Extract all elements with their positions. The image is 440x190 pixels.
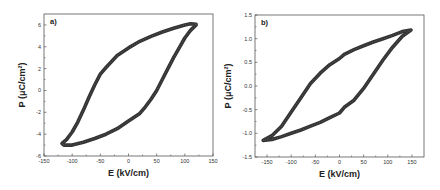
y-tick-label: -0.5 <box>243 107 252 113</box>
y-tick-label: -2 <box>36 109 41 115</box>
y-tick-label: 4 <box>38 44 41 50</box>
panel-label: a) <box>50 17 57 26</box>
chart-panel-b: -150-100-50050100150-1.5-1.0-0.50.00.51.… <box>223 12 424 179</box>
chart-panel-a: -150-100-50050100150-6-4-20246a)E (kV/cm… <box>17 14 218 178</box>
data-markers <box>62 24 196 145</box>
x-tick-label: 50 <box>361 159 367 165</box>
y-tick-label: 0.5 <box>244 59 252 65</box>
y-tick-label: 0 <box>38 87 41 93</box>
panel-label: b) <box>261 18 269 27</box>
x-tick-label: 150 <box>208 158 217 164</box>
y-tick-label: -6 <box>36 153 41 159</box>
x-tick-label: 50 <box>154 158 160 164</box>
x-tick-label: -50 <box>96 158 104 164</box>
x-tick-label: -50 <box>311 159 319 165</box>
hysteresis-figure: -150-100-50050100150-6-4-20246a)E (kV/cm… <box>0 0 440 190</box>
y-tick-label: -4 <box>36 131 41 137</box>
y-tick-label: 2 <box>38 66 41 72</box>
x-axis-label: E (kV/cm) <box>319 169 360 179</box>
y-tick-label: -1.0 <box>243 130 252 136</box>
data-loop <box>263 30 411 140</box>
y-axis-label: P (μC/cm²) <box>223 64 233 109</box>
x-tick-label: 100 <box>383 159 392 165</box>
y-tick-label: 1.5 <box>244 12 252 18</box>
y-tick-label: 0.0 <box>244 83 252 89</box>
data-markers <box>263 30 411 140</box>
data-loop <box>62 24 196 145</box>
x-tick-label: -100 <box>67 158 78 164</box>
x-tick-label: 0 <box>127 158 130 164</box>
x-tick-label: 100 <box>180 158 189 164</box>
x-tick-label: 150 <box>407 159 416 165</box>
x-tick-label: -150 <box>262 159 273 165</box>
y-tick-label: -1.5 <box>243 154 252 160</box>
y-axis-label: P (μC/cm²) <box>17 63 27 108</box>
y-tick-label: 6 <box>38 22 41 28</box>
y-tick-label: 1.0 <box>244 36 252 42</box>
x-tick-label: -100 <box>286 159 297 165</box>
x-axis-label: E (kV/cm) <box>108 168 149 178</box>
x-tick-label: 0 <box>338 159 341 165</box>
